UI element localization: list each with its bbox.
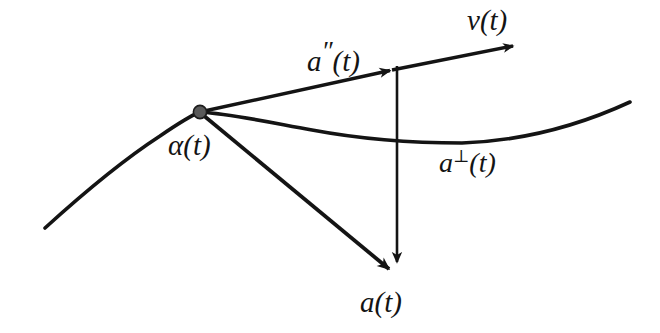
label-normal-acceleration: a⊥(t) — [439, 148, 496, 177]
curve-point-marker — [193, 105, 206, 118]
label-tangential-acceleration: a″(t) — [307, 38, 360, 76]
label-acceleration: a(t) — [360, 288, 402, 317]
label-velocity: v(t) — [467, 6, 507, 35]
label-velocity-base: v — [467, 4, 480, 36]
label-acceleration-arg: (t) — [375, 286, 402, 318]
label-alpha-arg: (t) — [183, 129, 210, 161]
label-acceleration-base: a — [360, 286, 375, 318]
label-normal-base: a — [439, 147, 453, 178]
label-tangential-arg: (t) — [333, 45, 360, 77]
label-velocity-arg: (t) — [480, 4, 507, 36]
velocity-vector — [392, 46, 513, 70]
perpendicular-icon: ⊥ — [453, 147, 469, 166]
label-alpha-base: α — [168, 129, 183, 161]
label-curve-point: α(t) — [168, 131, 211, 160]
label-tangential-base: a — [307, 45, 322, 77]
tangential-acceleration-vector — [202, 71, 390, 112]
label-normal-arg: (t) — [469, 147, 495, 178]
figure-canvas: a″(t) v(t) α(t) a⊥(t) a(t) — [0, 0, 660, 333]
trajectory-curve — [45, 102, 630, 228]
label-tangential-prime: ″ — [322, 36, 333, 66]
